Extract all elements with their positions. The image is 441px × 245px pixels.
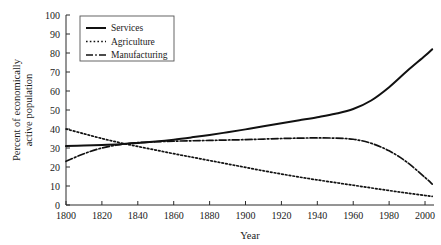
y-tick-label: 40 — [50, 124, 60, 135]
x-axis-ticks: 1800182018401860188019001920194019601980… — [56, 201, 435, 221]
y-tick-label: 80 — [50, 48, 60, 59]
x-axis-title: Year — [240, 230, 260, 241]
x-tick-label: 1840 — [128, 210, 148, 221]
y-tick-label: 90 — [50, 29, 60, 40]
x-tick-label: 2000 — [415, 210, 435, 221]
x-tick-label: 1860 — [164, 210, 184, 221]
y-tick-label: 20 — [50, 162, 60, 173]
y-tick-label: 60 — [50, 86, 60, 97]
chart-legend: ServicesAgricultureManufacturing — [80, 16, 174, 61]
y-axis-title-line1: Percent of economically — [11, 58, 22, 161]
x-tick-label: 1980 — [379, 210, 399, 221]
y-axis-title-line2: active population — [23, 73, 34, 146]
series-line-services — [66, 49, 432, 146]
series-line-manufacturing — [66, 138, 432, 184]
y-tick-label: 100 — [45, 10, 60, 21]
x-tick-label: 1900 — [236, 210, 256, 221]
y-tick-label: 70 — [50, 67, 60, 78]
y-tick-label: 50 — [50, 105, 60, 116]
x-tick-label: 1800 — [56, 210, 76, 221]
legend-label-manufacturing: Manufacturing — [111, 50, 168, 60]
chart-container: 0102030405060708090100 18001820184018601… — [0, 0, 441, 245]
x-tick-label: 1880 — [200, 210, 220, 221]
line-chart: 0102030405060708090100 18001820184018601… — [0, 0, 441, 245]
y-tick-label: 0 — [55, 200, 60, 211]
data-series-group — [66, 49, 432, 196]
x-tick-label: 1960 — [343, 210, 363, 221]
x-tick-label: 1820 — [92, 210, 112, 221]
y-tick-label: 10 — [50, 181, 60, 192]
x-tick-label: 1940 — [307, 210, 327, 221]
legend-label-agriculture: Agriculture — [111, 37, 155, 47]
legend-label-services: Services — [111, 23, 143, 33]
x-tick-label: 1920 — [271, 210, 291, 221]
y-tick-label: 30 — [50, 143, 60, 154]
